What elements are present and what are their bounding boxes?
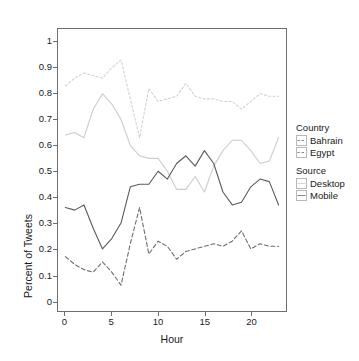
x-tick-label: 5 (96, 317, 126, 327)
y-axis-title-holder: Percent of Tweets (8, 90, 22, 250)
series-lines (58, 29, 286, 311)
legend-group-title: Source (296, 165, 359, 176)
x-axis-title: Hour (57, 333, 287, 345)
series-line (65, 94, 278, 192)
y-tick-label: 0.9 (12, 62, 52, 72)
legend-key-icon (296, 147, 307, 158)
legend-item[interactable]: Egypt (296, 146, 359, 158)
legend-key-icon (296, 135, 307, 146)
x-tick-label: 10 (143, 317, 173, 327)
plot-area (57, 28, 287, 312)
legend-key-icon (296, 190, 307, 201)
legend-item-label: Egypt (310, 147, 334, 158)
legend-item-label: Bahrain (310, 135, 343, 146)
legend-item-label: Mobile (310, 190, 338, 201)
series-line (65, 60, 278, 138)
chart-legend: CountryBahrainEgyptSourceDesktopMobile (296, 122, 359, 201)
y-axis-title: Percent of Tweets (22, 176, 34, 336)
legend-group-title: Country (296, 122, 359, 133)
legend-item[interactable]: Mobile (296, 189, 359, 201)
x-axis-tick-labels: 05101520 (0, 317, 359, 331)
legend-item-label: Desktop (310, 178, 345, 189)
legend-group-spacer (296, 158, 359, 165)
legend-item[interactable]: Desktop (296, 177, 359, 189)
x-tick-label: 20 (236, 317, 266, 327)
x-tick-label: 0 (49, 317, 79, 327)
legend-key-icon (296, 178, 307, 189)
series-line (65, 151, 278, 249)
legend-item[interactable]: Bahrain (296, 134, 359, 146)
series-line (65, 208, 278, 286)
x-tick-label: 15 (190, 317, 220, 327)
y-tick-label: 1 (12, 36, 52, 46)
chart-figure: 00.10.20.30.40.50.60.70.80.91 05101520 H… (0, 0, 359, 361)
